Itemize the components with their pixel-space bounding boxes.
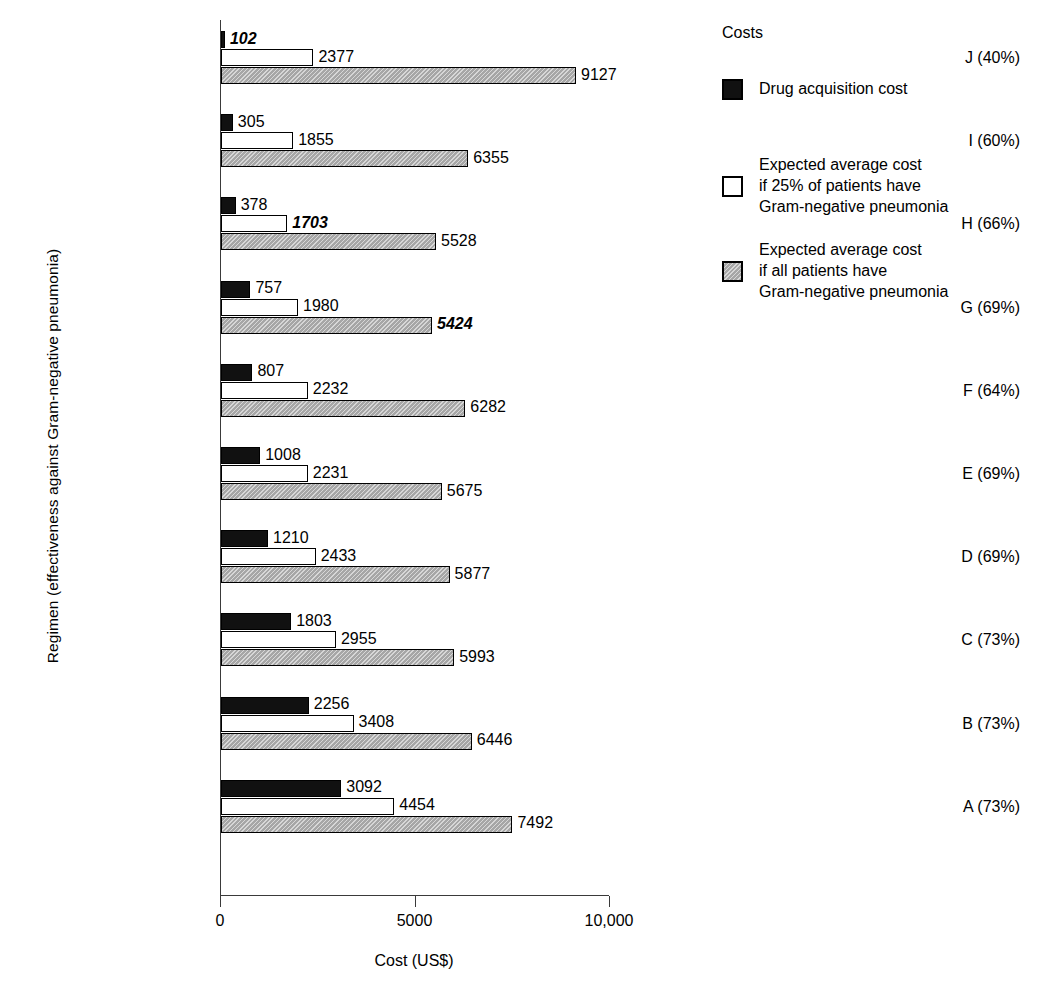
bar-value-label: 3092	[340, 778, 382, 796]
plot-area: 0500010,000Cost (US$)1022377912730518556…	[220, 20, 610, 896]
bar	[221, 67, 576, 84]
bar	[221, 364, 252, 381]
bar-value-label: 4454	[393, 796, 435, 814]
bar-chart-figure: Regimen (effectiveness against Gram-nega…	[0, 0, 1039, 1002]
bar	[221, 281, 250, 298]
bar	[221, 49, 313, 66]
x-axis-tick-label: 0	[216, 912, 225, 930]
bar	[221, 215, 287, 232]
bar	[221, 613, 291, 630]
bar-value-label: 1803	[290, 612, 332, 630]
bar-value-label: 1008	[259, 446, 301, 464]
bar	[221, 798, 394, 815]
bar	[221, 649, 454, 666]
bar-value-label: 807	[251, 362, 284, 380]
bar	[221, 150, 468, 167]
bar	[221, 483, 442, 500]
bar-value-label: 3408	[353, 713, 395, 731]
bar-value-label: 5877	[449, 565, 491, 583]
bar-value-label: 5424	[431, 315, 473, 333]
bar-value-label: 6282	[464, 398, 506, 416]
bar	[221, 400, 465, 417]
bar	[221, 317, 432, 334]
bar-value-label: 9127	[575, 66, 617, 84]
bar-value-label: 6355	[467, 149, 509, 167]
bar-value-label: 102	[224, 30, 257, 48]
bar-value-label: 2433	[315, 547, 357, 565]
bar-value-label: 378	[235, 196, 268, 214]
bar-value-label: 1855	[292, 131, 334, 149]
x-axis-tick	[609, 896, 610, 907]
bar-value-label: 1703	[286, 214, 328, 232]
bar-value-label: 5993	[453, 648, 495, 666]
legend-label: Drug acquisition cost	[759, 78, 908, 99]
bar-value-label: 305	[232, 113, 265, 131]
bar	[221, 233, 436, 250]
y-axis-category-label: A (73%)	[963, 798, 1020, 816]
bar	[221, 548, 316, 565]
legend-swatch-black	[722, 79, 743, 100]
x-axis-tick-label: 10,000	[585, 912, 634, 930]
bar	[221, 132, 293, 149]
x-axis-title: Cost (US$)	[374, 952, 453, 970]
y-axis-category-label: J (40%)	[965, 49, 1020, 67]
x-axis-tick	[415, 896, 416, 907]
y-axis-category-label: E (69%)	[962, 465, 1020, 483]
y-axis-category-label: H (66%)	[961, 215, 1020, 233]
bar-value-label: 757	[249, 279, 282, 297]
x-axis-tick-label: 5000	[397, 912, 433, 930]
x-axis-tick	[220, 896, 221, 907]
legend-swatch-white	[722, 176, 743, 197]
bar	[221, 447, 260, 464]
bar-value-label: 2232	[307, 380, 349, 398]
bar	[221, 566, 450, 583]
bar-value-label: 6446	[471, 731, 513, 749]
bar	[221, 697, 309, 714]
bar	[221, 631, 336, 648]
bar	[221, 780, 341, 797]
bar	[221, 715, 354, 732]
bar-value-label: 5528	[435, 232, 477, 250]
bar	[221, 382, 308, 399]
bar-value-label: 5675	[441, 482, 483, 500]
bar-value-label: 2955	[335, 630, 377, 648]
y-axis-category-label: F (64%)	[963, 382, 1020, 400]
bar	[221, 816, 512, 833]
legend-label: Expected average cost if 25% of patients…	[759, 154, 948, 217]
y-axis-category-label: I (60%)	[968, 132, 1020, 150]
bar-value-label: 2256	[308, 695, 350, 713]
bar-value-label: 7492	[511, 814, 553, 832]
y-axis-category-label: C (73%)	[961, 631, 1020, 649]
bar	[221, 733, 472, 750]
y-axis-category-label: G (69%)	[960, 299, 1020, 317]
bar-value-label: 2231	[307, 464, 349, 482]
bar	[221, 197, 236, 214]
y-axis-title: Regimen (effectiveness against Gram-nega…	[44, 176, 62, 736]
y-axis-category-label: B (73%)	[962, 715, 1020, 733]
legend-swatch-gray	[722, 261, 743, 282]
bar-value-label: 1210	[267, 529, 309, 547]
bar-value-label: 2377	[312, 48, 354, 66]
bar	[221, 465, 308, 482]
legend-title: Costs	[722, 24, 763, 42]
y-axis-category-label: D (69%)	[961, 548, 1020, 566]
legend-label: Expected average cost if all patients ha…	[759, 239, 948, 302]
bar	[221, 530, 268, 547]
bar	[221, 299, 298, 316]
bar-value-label: 1980	[297, 297, 339, 315]
